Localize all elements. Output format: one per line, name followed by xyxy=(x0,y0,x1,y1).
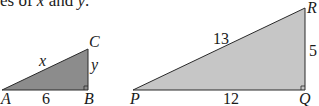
vertex-label-r: R xyxy=(306,0,317,16)
triangle-abc: A B C 6 x y xyxy=(0,33,100,106)
vertex-label-c: C xyxy=(89,33,100,50)
side-label-pr: 13 xyxy=(213,30,229,47)
vertex-label-q: Q xyxy=(299,90,311,106)
vertex-label-a: A xyxy=(0,90,11,106)
vertex-label-b: B xyxy=(84,90,94,106)
side-label-pq: 12 xyxy=(223,90,239,106)
vertex-label-p: P xyxy=(129,90,140,106)
similar-triangles-figure: A B C 6 x y P Q R 12 13 5 xyxy=(0,0,319,106)
side-label-ab: 6 xyxy=(42,90,50,106)
triangle-pqr: P Q R 12 13 5 xyxy=(129,0,317,106)
side-label-qr: 5 xyxy=(309,42,317,59)
side-label-bc: y xyxy=(89,56,99,74)
side-label-ac: x xyxy=(38,52,46,69)
